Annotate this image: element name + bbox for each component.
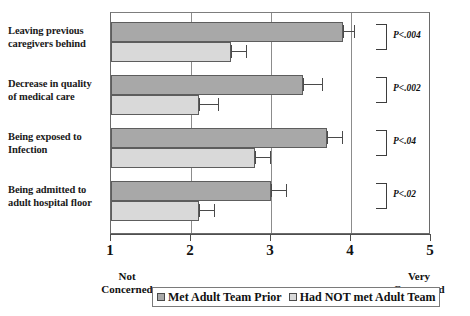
x-axis-tick xyxy=(110,234,111,241)
error-bar-cap xyxy=(303,78,304,91)
pvalue-label: P<.02 xyxy=(393,189,416,199)
category-label-line: adult hospital floor xyxy=(8,197,92,208)
error-bar-cap xyxy=(246,45,247,58)
error-bar-cap xyxy=(286,184,287,197)
error-bar-cap xyxy=(199,204,200,217)
bar xyxy=(111,148,255,168)
figure-container: Leaving previous caregivers behind Decre… xyxy=(0,0,470,316)
pvalue-label: P<.002 xyxy=(393,83,421,93)
bracket-icon xyxy=(376,77,387,103)
error-bar-line xyxy=(255,157,271,158)
error-bar xyxy=(199,95,219,115)
category-label-being-admitted-adult-floor: Being admitted to adult hospital floor xyxy=(8,184,108,209)
error-bar-cap xyxy=(199,98,200,111)
error-bar xyxy=(255,148,271,168)
bracket-icon xyxy=(376,130,387,156)
error-bar-line xyxy=(271,190,287,191)
x-axis-tick xyxy=(270,234,271,241)
category-label-line: Leaving previous xyxy=(8,25,84,36)
pvalue-label: P<.04 xyxy=(393,136,416,146)
bracket-icon xyxy=(376,24,387,50)
x-axis-tick-label: 5 xyxy=(420,242,440,259)
x-axis-tick xyxy=(430,234,431,241)
error-bar xyxy=(343,22,355,42)
category-label-being-exposed-to-infection: Being exposed to Infection xyxy=(8,131,108,156)
error-bar-line xyxy=(231,51,247,52)
error-bar-cap xyxy=(342,131,343,144)
x-axis-tick-label: 3 xyxy=(260,242,280,259)
bracket-icon xyxy=(376,183,387,209)
error-bar-cap xyxy=(255,151,256,164)
category-axis-labels: Leaving previous caregivers behind Decre… xyxy=(0,12,108,234)
bar xyxy=(111,181,271,201)
x-axis-tick xyxy=(190,234,191,241)
x-axis-tick-label: 4 xyxy=(340,242,360,259)
bar xyxy=(111,75,303,95)
error-bar xyxy=(271,181,287,201)
x-axis-tick xyxy=(350,234,351,241)
category-label-leaving-previous-caregivers: Leaving previous caregivers behind xyxy=(8,25,108,50)
error-bar-line xyxy=(303,84,323,85)
pvalue-label: P<.004 xyxy=(393,30,421,40)
error-bar-cap xyxy=(214,204,215,217)
bar xyxy=(111,42,231,62)
category-label-decrease-in-quality: Decrease in quality of medical care xyxy=(8,78,108,103)
x-axis-tick-label: 2 xyxy=(180,242,200,259)
error-bar-cap xyxy=(270,151,271,164)
error-bar-line xyxy=(199,210,215,211)
axis-anchor-low-line: Concerned xyxy=(101,283,152,295)
category-label-line: Being exposed to xyxy=(8,131,82,142)
legend-swatch-icon xyxy=(157,293,165,301)
error-bar xyxy=(303,75,323,95)
error-bar-cap xyxy=(343,25,344,38)
axis-anchor-high-line: Very xyxy=(408,270,430,282)
category-label-line: Decrease in quality xyxy=(8,78,92,89)
legend-item-label: Met Adult Team Prior xyxy=(168,290,282,305)
bar xyxy=(111,128,327,148)
category-label-line: of medical care xyxy=(8,91,75,102)
legend-swatch-icon xyxy=(289,293,297,301)
category-label-line: Being admitted to xyxy=(8,184,86,195)
axis-anchor-low-line: Not xyxy=(118,270,135,282)
legend-item-met-adult-team-prior: Met Adult Team Prior xyxy=(157,290,282,305)
chart-legend: Met Adult Team Prior Had NOT met Adult T… xyxy=(152,287,440,307)
bar xyxy=(111,201,199,221)
error-bar-line xyxy=(327,137,343,138)
error-bar-cap xyxy=(322,78,323,91)
legend-item-label: Had NOT met Adult Team xyxy=(300,290,436,305)
error-bar xyxy=(231,42,247,62)
error-bar-cap xyxy=(327,131,328,144)
bar xyxy=(111,95,199,115)
error-bar xyxy=(327,128,343,148)
error-bar xyxy=(199,201,215,221)
error-bar-cap xyxy=(218,98,219,111)
error-bar-cap xyxy=(354,25,355,38)
gridline xyxy=(351,13,352,233)
legend-item-had-not-met-adult-team: Had NOT met Adult Team xyxy=(289,290,436,305)
category-label-line: caregivers behind xyxy=(8,38,86,49)
error-bar-cap xyxy=(231,45,232,58)
x-axis-tick-label: 1 xyxy=(100,242,120,259)
bar xyxy=(111,22,343,42)
error-bar-cap xyxy=(271,184,272,197)
category-label-line: Infection xyxy=(8,144,47,155)
error-bar-line xyxy=(199,104,219,105)
